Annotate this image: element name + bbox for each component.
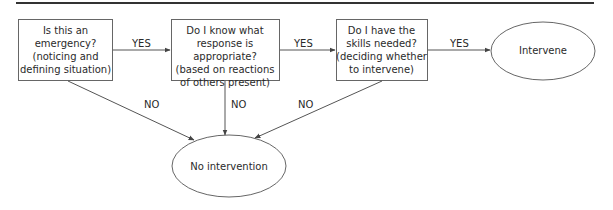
edge-q3-no xyxy=(255,81,382,138)
node-intervene-text: Intervene xyxy=(491,44,595,57)
edge-label-q3-intervene: YES xyxy=(450,38,469,50)
node-q2-text: Do I know what response is appropriate? … xyxy=(168,24,282,89)
edge-label-q2-no: NO xyxy=(231,99,246,111)
edge-label-q3-no: NO xyxy=(298,99,313,111)
node-no-intervention-text: No intervention xyxy=(172,160,286,173)
node-q3-text: Do I have the skills needed? (deciding w… xyxy=(334,24,429,76)
edge-label-q2-q3: YES xyxy=(294,38,313,50)
edge-q1-no xyxy=(68,81,194,140)
node-q1-text: Is this an emergency? (noticing and defi… xyxy=(18,24,113,76)
edge-label-q1-no: NO xyxy=(144,99,159,111)
edge-label-q1-q2: YES xyxy=(132,38,151,50)
